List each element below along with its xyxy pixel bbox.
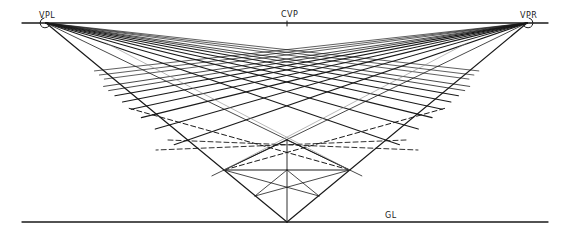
vpl-ray [46, 23, 465, 91]
dashed-diagonal [128, 108, 350, 170]
vpr-ray [94, 23, 527, 71]
vpr-ray [174, 23, 527, 145]
vpl-ray [46, 23, 399, 145]
vpr-label: VPR [520, 12, 537, 20]
perspective-diagram [0, 0, 572, 234]
vpl-ray [46, 23, 470, 86]
vpl-ray [46, 23, 442, 109]
dashed-diagonal [224, 108, 446, 170]
diagonal [224, 170, 319, 196]
vpr-ray [131, 23, 527, 109]
gl-label: GL [385, 212, 397, 220]
vpl-label: VPL [39, 12, 55, 20]
diagonal [287, 140, 350, 170]
cvp-label: CVP [281, 11, 298, 19]
vpl-ray [46, 23, 479, 71]
vpr-ray [104, 23, 527, 86]
diagonal [255, 170, 350, 196]
vpr-ray [109, 23, 527, 91]
